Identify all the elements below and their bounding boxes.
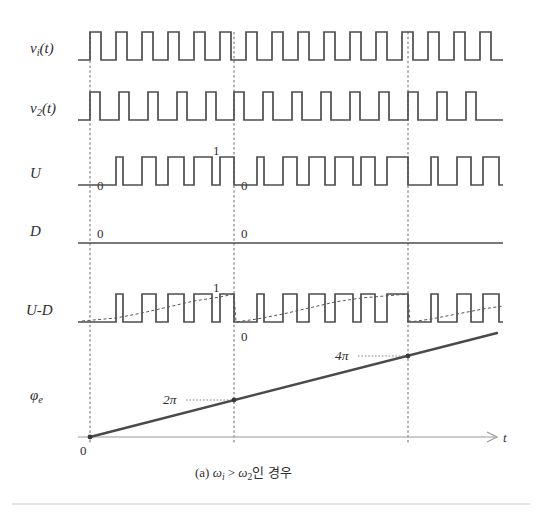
row-label-u-minus-d: U-D	[26, 302, 53, 318]
phase-origin-label: 0	[80, 443, 87, 458]
ud-low-label-second: 0	[241, 329, 248, 344]
phase-detector-figure: vi(t) v2(t) U 0 1 0 D 0 0 U-D	[0, 0, 542, 513]
caption-korean: 인 경우	[252, 465, 291, 480]
phase-error-ramp	[90, 333, 497, 437]
d-zero-label-second: 0	[241, 226, 248, 241]
row-v2: v2(t)	[30, 92, 503, 120]
caption-omega-i: ω	[213, 465, 222, 480]
row-u-minus-d: U-D 1 0	[26, 280, 503, 344]
row-label-v2-tail: (t)	[42, 100, 56, 117]
waveform-u	[78, 157, 503, 185]
row-phi-e: φe t 2π 4π 0	[30, 333, 507, 458]
time-axis-label: t	[503, 430, 507, 445]
phase-label-4pi: 4π	[335, 348, 350, 363]
row-label-v1: vi(t)	[30, 40, 54, 58]
waveform-u-minus-d	[78, 294, 503, 322]
phase-origin-dot	[88, 435, 93, 440]
row-label-d: D	[29, 223, 41, 239]
u-minus-d-average-envelope	[82, 294, 503, 322]
row-label-v1-tail: (t)	[40, 40, 54, 57]
d-zero-label-first: 0	[97, 226, 104, 241]
phase-marker-dot-4pi	[406, 354, 411, 359]
phase-label-2pi: 2π	[163, 392, 178, 407]
caption-line: (a) ωi > ω2인 경우	[195, 465, 292, 482]
row-label-v2: v2(t)	[30, 100, 56, 118]
row-u: U 0 1 0	[30, 143, 503, 193]
row-label-phi-e: φe	[30, 387, 43, 405]
u-high-label-first: 1	[213, 143, 220, 158]
row-label-u: U	[30, 165, 42, 181]
row-label-phi-e-main: φ	[30, 387, 38, 403]
waveform-diagram: vi(t) v2(t) U 0 1 0 D 0 0 U-D	[0, 0, 542, 513]
row-v1: vi(t)	[30, 32, 503, 60]
figure-caption: (a) ωi > ω2인 경우	[195, 465, 292, 482]
caption-omega-2: ω	[238, 465, 247, 480]
waveform-v2	[78, 92, 503, 120]
phase-marker-dot-2pi	[232, 398, 237, 403]
caption-relation: >	[228, 465, 235, 480]
ud-high-label-first: 1	[213, 280, 220, 295]
caption-prefix: (a)	[195, 465, 209, 480]
row-d: D 0 0	[29, 223, 503, 243]
waveform-v1	[78, 32, 503, 60]
row-label-phi-e-sub: e	[38, 394, 43, 405]
